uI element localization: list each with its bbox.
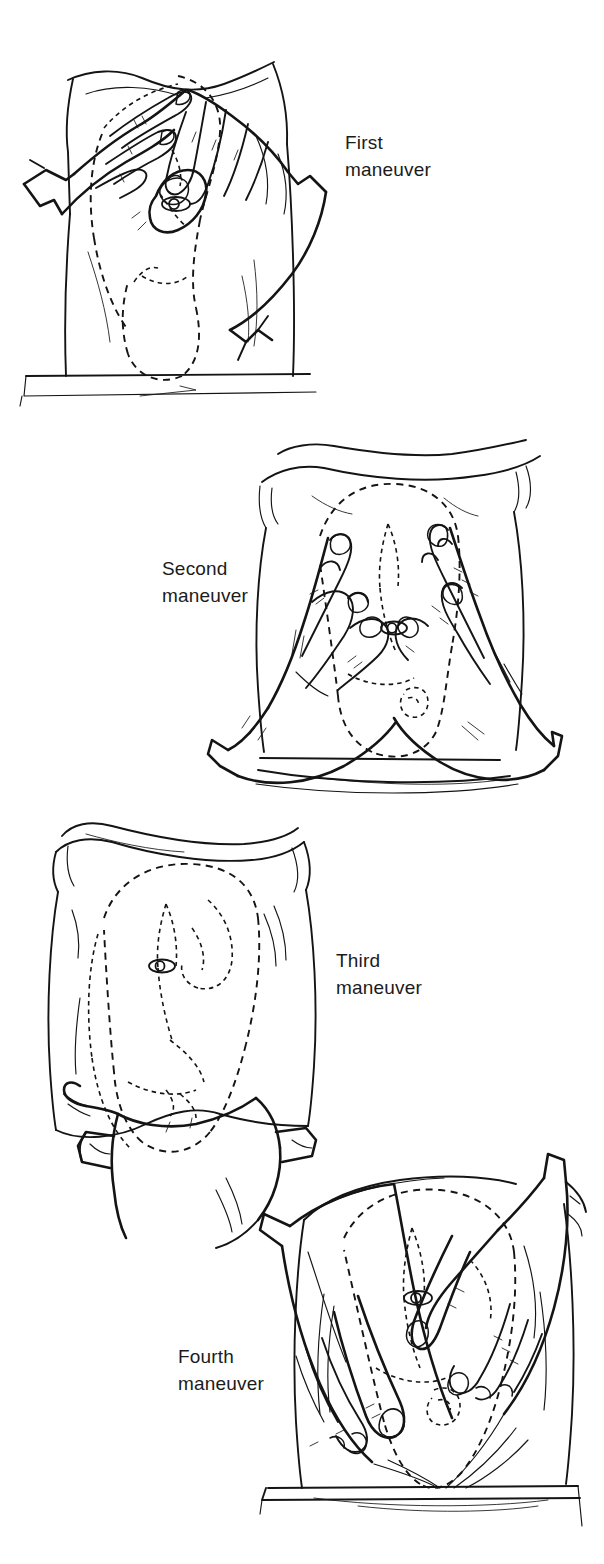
panel-fourth-maneuver <box>248 1142 598 1542</box>
panel-second-maneuver <box>200 440 560 808</box>
panel-first-maneuver <box>10 24 340 414</box>
torso-outline <box>256 440 540 752</box>
examiner-right-hand <box>407 1154 586 1414</box>
caption-first-line2: maneuver <box>345 157 431 184</box>
torso-outline <box>294 1177 573 1488</box>
caption-first-line1: First <box>345 130 431 157</box>
examination-table-edge <box>256 758 518 793</box>
examiner-left-hand <box>260 1184 452 1462</box>
caption-third-maneuver: Third maneuver <box>336 948 422 1002</box>
caption-fourth-maneuver: Fourth maneuver <box>178 1344 264 1398</box>
leopold-maneuvers-figure: First maneuver <box>0 0 604 1564</box>
examiner-right-hand <box>394 525 562 780</box>
second-maneuver-illustration <box>200 440 560 808</box>
caption-fourth-line1: Fourth <box>178 1344 264 1371</box>
caption-first-maneuver: First maneuver <box>345 130 431 184</box>
examiner-left-hand <box>24 90 191 214</box>
fourth-maneuver-illustration <box>248 1142 598 1542</box>
caption-third-line2: maneuver <box>336 975 422 1002</box>
caption-second-line1: Second <box>162 556 248 583</box>
first-maneuver-illustration <box>10 24 340 414</box>
caption-fourth-line2: maneuver <box>178 1371 264 1398</box>
examination-table-edge <box>260 1486 582 1526</box>
caption-third-line1: Third <box>336 948 422 975</box>
gown-drape <box>53 823 309 892</box>
caption-second-maneuver: Second maneuver <box>162 556 248 610</box>
fetus-dashed-outline <box>344 1189 515 1488</box>
fetus-dashed-outline <box>89 864 260 1152</box>
umbilicus <box>381 622 407 635</box>
caption-second-line2: maneuver <box>162 583 248 610</box>
umbilicus <box>149 960 175 973</box>
pelvic-inlet-lines <box>374 1414 528 1488</box>
index-fingers-meeting <box>338 617 428 690</box>
